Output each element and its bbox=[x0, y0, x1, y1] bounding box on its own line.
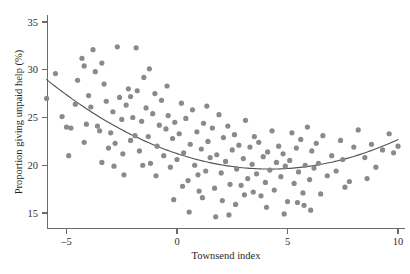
x-axis-title: Townsend index bbox=[192, 250, 262, 261]
data-point bbox=[99, 160, 104, 165]
data-point bbox=[369, 142, 374, 147]
data-point bbox=[272, 187, 277, 192]
data-point bbox=[104, 99, 109, 104]
data-point bbox=[139, 119, 144, 124]
data-point bbox=[166, 113, 171, 118]
data-point bbox=[362, 155, 367, 160]
data-point bbox=[342, 185, 347, 190]
data-point bbox=[101, 81, 106, 86]
data-point bbox=[380, 147, 385, 152]
data-point bbox=[137, 148, 142, 153]
data-point bbox=[351, 145, 356, 150]
data-point bbox=[163, 126, 168, 131]
data-point bbox=[210, 125, 215, 130]
data-point bbox=[300, 190, 305, 195]
data-point bbox=[93, 69, 98, 74]
data-point bbox=[269, 128, 274, 133]
data-point bbox=[159, 98, 164, 103]
data-point bbox=[347, 179, 352, 184]
data-point bbox=[219, 170, 224, 175]
data-point bbox=[251, 189, 256, 194]
x-tick-label: 10 bbox=[393, 236, 404, 247]
y-axis-ticks: 1520253035 bbox=[28, 17, 48, 219]
data-point bbox=[119, 117, 124, 122]
data-point bbox=[99, 60, 104, 65]
data-point bbox=[213, 214, 218, 219]
data-point bbox=[250, 162, 255, 167]
data-point bbox=[147, 66, 152, 71]
data-point bbox=[274, 160, 279, 165]
data-point bbox=[212, 186, 217, 191]
data-point bbox=[171, 197, 176, 202]
x-axis-ticks: –50510 bbox=[60, 229, 403, 248]
y-tick-label: 35 bbox=[28, 17, 39, 28]
data-point bbox=[168, 165, 173, 170]
data-point bbox=[180, 184, 185, 189]
data-point bbox=[115, 44, 120, 49]
y-tick-label: 15 bbox=[28, 208, 39, 219]
data-point bbox=[90, 47, 95, 52]
data-point bbox=[287, 158, 292, 163]
data-point bbox=[200, 195, 205, 200]
data-point bbox=[278, 174, 283, 179]
data-point bbox=[190, 107, 195, 112]
data-point bbox=[223, 159, 228, 164]
data-point bbox=[364, 176, 369, 181]
data-point bbox=[261, 154, 266, 159]
data-point bbox=[148, 161, 153, 166]
data-point bbox=[155, 144, 160, 149]
figure-container: 1520253035 –50510 Townsend index Proport… bbox=[0, 0, 410, 274]
data-point bbox=[307, 177, 312, 182]
x-tick-label: –5 bbox=[60, 236, 72, 247]
data-point bbox=[247, 145, 252, 150]
data-point bbox=[88, 104, 93, 109]
data-point bbox=[95, 123, 100, 128]
data-point bbox=[121, 172, 126, 177]
data-point bbox=[84, 122, 89, 127]
data-point bbox=[177, 131, 182, 136]
data-point bbox=[164, 83, 169, 88]
data-point bbox=[254, 171, 259, 176]
data-point bbox=[294, 145, 299, 150]
data-point bbox=[395, 144, 400, 149]
data-point bbox=[258, 193, 263, 198]
data-point bbox=[298, 137, 303, 142]
x-tick-label: 5 bbox=[285, 236, 290, 247]
data-point bbox=[187, 209, 192, 214]
data-point bbox=[146, 134, 151, 139]
data-point bbox=[152, 91, 157, 96]
data-point bbox=[265, 149, 270, 154]
data-point bbox=[153, 173, 158, 178]
data-point bbox=[289, 130, 294, 135]
data-point bbox=[179, 101, 184, 106]
data-point bbox=[79, 56, 84, 61]
data-point bbox=[227, 182, 232, 187]
data-point bbox=[334, 168, 339, 173]
data-point bbox=[282, 211, 287, 216]
caption-remnant bbox=[0, 266, 410, 274]
data-point bbox=[316, 161, 321, 166]
data-point bbox=[86, 93, 91, 98]
data-point bbox=[204, 103, 209, 108]
data-point bbox=[110, 109, 115, 114]
data-point bbox=[295, 200, 300, 205]
data-point bbox=[111, 164, 116, 169]
data-point bbox=[236, 143, 241, 148]
data-point bbox=[181, 150, 186, 155]
axes-group bbox=[47, 15, 405, 229]
data-point bbox=[106, 145, 111, 150]
data-point bbox=[161, 153, 166, 158]
data-point bbox=[188, 142, 193, 147]
data-point bbox=[226, 212, 231, 217]
data-point bbox=[141, 75, 146, 80]
data-point bbox=[140, 163, 145, 168]
data-point bbox=[130, 115, 135, 120]
data-point bbox=[305, 124, 310, 129]
data-point bbox=[318, 191, 323, 196]
data-point bbox=[66, 153, 71, 158]
data-point bbox=[82, 63, 87, 68]
data-point bbox=[238, 183, 243, 188]
data-point bbox=[117, 95, 122, 100]
data-point bbox=[340, 157, 345, 162]
data-point bbox=[135, 88, 140, 93]
